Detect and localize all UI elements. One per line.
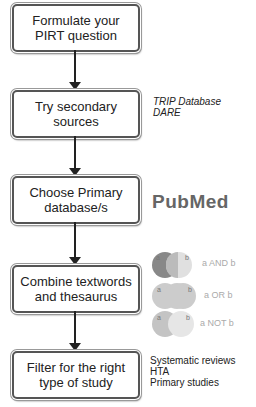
venn-or-label: a OR b (204, 290, 233, 300)
systematic-reviews-label: Systematic reviews (150, 355, 236, 366)
arrow-3 (74, 222, 76, 263)
step-combine-terms: Combine textwords and thesaurus (12, 265, 140, 313)
arrow-2 (74, 136, 76, 174)
arrow-1 (74, 50, 76, 88)
step-formulate-question: Formulate your PIRT question (12, 4, 140, 52)
pubmed-logo: PubMed (152, 191, 229, 213)
venn-or: a b (152, 283, 200, 309)
venn-and-label: a AND b (202, 258, 236, 268)
arrow-4 (74, 311, 76, 349)
trip-database-label: TRIP Database (153, 96, 221, 107)
hta-label: HTA (150, 366, 236, 377)
step-filter-study-type: Filter for the right type of study (12, 351, 140, 399)
secondary-sources-list: TRIP Database DARE (153, 96, 221, 118)
primary-studies-label: Primary studies (150, 377, 236, 388)
venn-and: a b (152, 252, 200, 278)
dare-label: DARE (153, 107, 221, 118)
step-secondary-sources: Try secondary sources (12, 90, 140, 138)
study-types-list: Systematic reviews HTA Primary studies (150, 355, 236, 388)
venn-not: a b (152, 311, 200, 337)
step-primary-database: Choose Primary database/s (12, 176, 140, 224)
venn-not-label: a NOT b (200, 318, 234, 328)
